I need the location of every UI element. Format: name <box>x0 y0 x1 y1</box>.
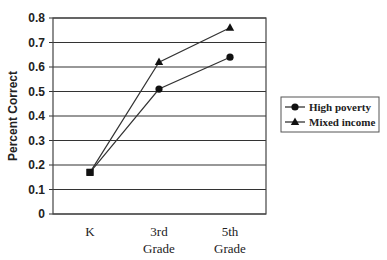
circle-marker <box>155 85 162 92</box>
y-tick-label: 0.7 <box>28 36 45 50</box>
gridlines <box>49 18 266 214</box>
y-tick-label: 0.5 <box>28 85 45 99</box>
y-tick-label: 0 <box>38 207 45 221</box>
triangle-marker <box>155 58 163 66</box>
circle-marker <box>226 54 233 61</box>
y-tick-label: 0.1 <box>28 183 45 197</box>
data-series <box>87 23 235 176</box>
x-tick-label: K <box>85 224 95 239</box>
series-line <box>90 28 230 173</box>
legend-label: Mixed income <box>309 116 375 128</box>
y-tick-label: 0.3 <box>28 134 45 148</box>
y-tick-label: 0.2 <box>28 158 45 172</box>
triangle-marker <box>226 23 234 31</box>
x-tick-label: Grade <box>143 241 175 256</box>
x-tick-label: 5th <box>222 224 239 239</box>
circle-marker <box>291 103 298 110</box>
series-high-poverty <box>87 54 234 176</box>
y-axis-label: Percent Correct <box>6 71 20 161</box>
y-axis-ticks: 00.10.20.30.40.50.60.70.8 <box>28 11 45 221</box>
y-tick-label: 0.6 <box>28 60 45 74</box>
y-tick-label: 0.8 <box>28 11 45 25</box>
square-marker <box>87 169 94 176</box>
legend-label: High poverty <box>309 101 372 113</box>
series-line <box>90 57 230 172</box>
y-tick-label: 0.4 <box>28 109 45 123</box>
x-tick-label: 3rd <box>150 224 168 239</box>
legend: High povertyMixed income <box>281 97 379 132</box>
x-axis-ticks: K3rdGrade5thGrade <box>85 224 246 256</box>
line-chart: 00.10.20.30.40.50.60.70.8 Percent Correc… <box>0 0 387 260</box>
series-mixed-income <box>87 23 235 176</box>
x-tick-label: Grade <box>214 241 246 256</box>
